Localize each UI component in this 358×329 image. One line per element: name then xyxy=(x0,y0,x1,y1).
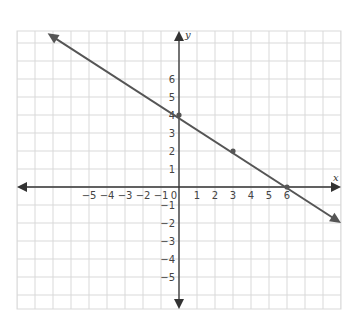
x-tick-label: 4 xyxy=(248,190,254,201)
y-tick-label: 1 xyxy=(169,164,175,175)
data-point xyxy=(176,112,181,117)
y-tick-label: −5 xyxy=(160,272,175,283)
x-tick-label: 1 xyxy=(194,190,200,201)
y-axis-label: y xyxy=(184,29,191,40)
coordinate-plane: −5−4−3−2−10123456654321−1−2−3−4−5 x y xyxy=(0,0,358,329)
y-tick-label: −1 xyxy=(160,200,175,211)
y-tick-label: −2 xyxy=(160,218,175,229)
x-tick-label: 5 xyxy=(266,190,272,201)
x-tick-label: −5 xyxy=(82,190,97,201)
data-point xyxy=(230,148,235,153)
x-tick-label: 2 xyxy=(212,190,218,201)
x-axis-label: x xyxy=(333,172,339,183)
y-tick-label: −3 xyxy=(160,236,175,247)
x-tick-label: −4 xyxy=(100,190,115,201)
y-tick-label: −4 xyxy=(160,254,175,265)
data-point xyxy=(284,184,289,189)
y-tick-label: 2 xyxy=(169,146,175,157)
x-tick-label: 3 xyxy=(230,190,236,201)
x-tick-label: −3 xyxy=(118,190,133,201)
x-tick-label: −2 xyxy=(136,190,151,201)
x-tick-label: 6 xyxy=(284,190,290,201)
y-tick-label: 3 xyxy=(169,128,175,139)
y-tick-label: 6 xyxy=(169,74,175,85)
y-tick-label: 5 xyxy=(169,92,175,103)
